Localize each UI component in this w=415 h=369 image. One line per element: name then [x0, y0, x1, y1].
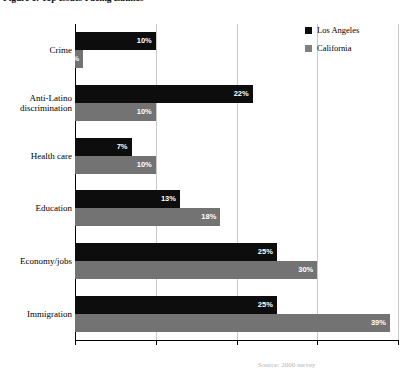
gridline-40 — [398, 24, 399, 340]
gridline-30 — [317, 24, 318, 340]
x-tick-10 — [156, 340, 157, 345]
bar-row: 13% — [75, 190, 398, 208]
bar-los-angeles: 25% — [75, 243, 277, 261]
bar-california: 10% — [75, 156, 156, 174]
category-label-immigration: Immigration — [27, 309, 72, 319]
x-tick-20 — [237, 340, 238, 345]
bar-value-label: 22% — [234, 90, 249, 98]
bar-value-label: 25% — [258, 301, 273, 309]
bar-row: 30% — [75, 261, 398, 279]
figure-footnote: Source: 2000 survey — [258, 361, 316, 369]
y-axis-line — [75, 24, 76, 340]
category-label-education: Education — [36, 203, 73, 213]
x-tick-30 — [317, 340, 318, 345]
category-label-economy-jobs: Economy/jobs — [20, 256, 72, 266]
bar-row: 10% — [75, 103, 398, 121]
bar-california: 30% — [75, 261, 317, 279]
bar-row: 25% — [75, 243, 398, 261]
x-tick-40 — [398, 340, 399, 345]
bar-row: 22% — [75, 85, 398, 103]
legend-item[interactable]: Los Angeles — [305, 26, 400, 35]
category-label-anti-latino-discrimination: Anti-Latino discrimination — [20, 93, 72, 113]
plot-area: 10%1%22%10%7%10%13%18%25%30%25%39% — [75, 24, 398, 340]
bar-los-angeles: 7% — [75, 138, 132, 156]
bar-row: 25% — [75, 296, 398, 314]
bar-los-angeles: 22% — [75, 85, 253, 103]
chart-legend: Los AngelesCalifornia — [305, 26, 400, 62]
bar-california: 18% — [75, 208, 220, 226]
bar-california: 1% — [75, 50, 83, 68]
bar-value-label: 10% — [137, 108, 152, 116]
x-tick-0 — [75, 340, 76, 345]
bar-value-label: 18% — [201, 214, 216, 222]
square-swatch-icon — [305, 27, 312, 34]
bar-los-angeles: 10% — [75, 32, 156, 50]
bar-value-label: 25% — [258, 248, 273, 256]
bar-value-label: 1% — [68, 56, 79, 64]
category-label-crime: Crime — [50, 45, 73, 55]
bar-los-angeles: 25% — [75, 296, 277, 314]
bar-california: 39% — [75, 314, 390, 332]
bar-value-label: 10% — [137, 161, 152, 169]
category-label-health-care: Health care — [31, 151, 72, 161]
bar-value-label: 7% — [117, 143, 128, 151]
bar-row: 7% — [75, 138, 398, 156]
bar-row: 10% — [75, 156, 398, 174]
legend-label: Los Angeles — [317, 26, 359, 35]
bar-los-angeles: 13% — [75, 190, 180, 208]
square-swatch-icon — [305, 45, 312, 52]
bar-california: 10% — [75, 103, 156, 121]
gridline-20 — [237, 24, 238, 340]
bar-row: 39% — [75, 314, 398, 332]
bar-value-label: 13% — [161, 196, 176, 204]
bar-value-label: 10% — [137, 38, 152, 46]
legend-label: California — [317, 44, 351, 53]
bar-value-label: 39% — [371, 319, 386, 327]
bar-row: 18% — [75, 208, 398, 226]
gridline-10 — [156, 24, 157, 340]
bar-value-label: 30% — [298, 266, 313, 274]
legend-item[interactable]: California — [305, 44, 400, 53]
